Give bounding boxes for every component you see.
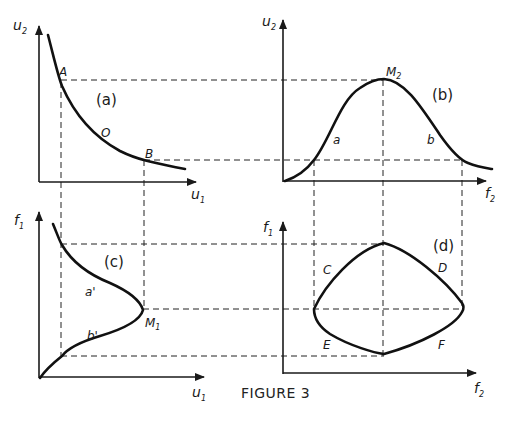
point-C-label: C — [323, 263, 332, 277]
point-b-prime-label: b' — [87, 329, 98, 343]
panel-a-label: (a) — [96, 91, 117, 109]
point-b-label: b — [427, 133, 435, 147]
axis-label-u2: u2 — [262, 13, 276, 32]
point-F-label: F — [438, 338, 446, 352]
curve-b — [285, 79, 492, 181]
panel-d-label: (d) — [433, 237, 454, 255]
axis-label-f1: f1 — [14, 212, 24, 231]
point-E-label: E — [323, 338, 331, 352]
panel-a: u2 u1 A O B (a) — [13, 17, 205, 205]
point-a-label: a — [333, 133, 340, 147]
figure-3-diagram: u2 u1 A O B (a) u2 f2 M2 a b (b) f1 u1 M… — [0, 0, 508, 426]
panel-b: u2 f2 M2 a b (b) — [262, 13, 495, 204]
panel-c: f1 u1 M1 a' b' (c) — [14, 212, 206, 403]
point-a-prime-label: a' — [85, 285, 96, 299]
axis-label-u2: u2 — [13, 17, 27, 36]
axis-label-u1: u1 — [191, 186, 205, 205]
projection-lines — [61, 80, 462, 358]
curve-c — [40, 224, 143, 378]
point-A-label: A — [58, 65, 67, 79]
point-M1-label: M1 — [145, 316, 160, 332]
axis-label-f1: f1 — [263, 219, 273, 238]
axis-label-f2: f2 — [474, 380, 484, 399]
point-M2-label: M2 — [386, 65, 401, 81]
point-O-label: O — [101, 126, 110, 140]
point-D-label: D — [438, 261, 447, 275]
point-B-label: B — [145, 147, 153, 161]
axis-label-u1: u1 — [192, 384, 206, 403]
panel-c-label: (c) — [104, 253, 124, 271]
figure-caption: FIGURE 3 — [241, 385, 310, 401]
panel-b-label: (b) — [432, 86, 453, 104]
axis-label-f2: f2 — [485, 185, 495, 204]
